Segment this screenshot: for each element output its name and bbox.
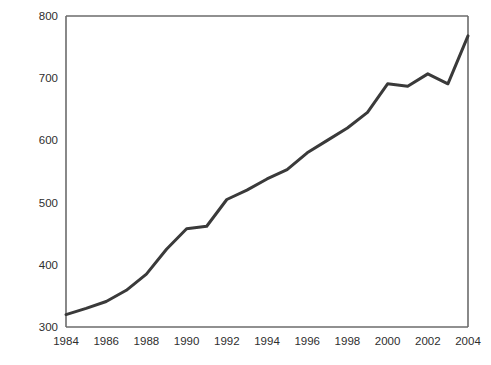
x-tick-label: 1990 (174, 335, 200, 347)
y-tick-label: 800 (39, 10, 58, 22)
plot-area: 300400500600700800 198419861988199019921… (0, 0, 491, 365)
x-axis-tick-labels: 1984198619881990199219941996199820002002… (53, 335, 481, 347)
x-tick-label: 1986 (93, 335, 119, 347)
y-tick-label: 500 (39, 197, 58, 209)
chart-background (0, 0, 491, 365)
x-tick-label: 2002 (415, 335, 441, 347)
x-tick-label: 1998 (335, 335, 361, 347)
y-tick-label: 400 (39, 259, 58, 271)
x-tick-label: 2000 (375, 335, 401, 347)
line-chart: Millions of arrivals 300400500600700800 … (0, 0, 491, 365)
y-tick-label: 600 (39, 134, 58, 146)
x-tick-label: 1992 (214, 335, 240, 347)
y-tick-label: 300 (39, 321, 58, 333)
x-tick-label: 1996 (294, 335, 320, 347)
x-tick-label: 1994 (254, 335, 280, 347)
y-tick-label: 700 (39, 72, 58, 84)
x-tick-label: 2004 (455, 335, 481, 347)
x-tick-label: 1988 (134, 335, 160, 347)
x-tick-label: 1984 (53, 335, 79, 347)
